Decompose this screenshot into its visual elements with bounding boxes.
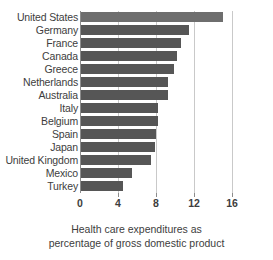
tick-label: 8 bbox=[153, 197, 159, 209]
bar-row bbox=[81, 11, 233, 24]
bar-row bbox=[81, 89, 233, 102]
category-label: Japan bbox=[0, 141, 78, 154]
bar bbox=[81, 181, 123, 191]
chart-caption: Health care expenditures as percentage o… bbox=[0, 222, 273, 250]
category-axis-labels: United StatesGermanyFranceCanadaGreeceNe… bbox=[0, 11, 78, 193]
bar bbox=[81, 168, 132, 178]
bar-row bbox=[81, 63, 233, 76]
category-label: Canada bbox=[0, 50, 78, 63]
bar bbox=[81, 51, 177, 61]
category-label: Spain bbox=[0, 128, 78, 141]
bar-row bbox=[81, 115, 233, 128]
health-expenditure-bar-chart: United StatesGermanyFranceCanadaGreeceNe… bbox=[0, 0, 273, 260]
category-label: Australia bbox=[0, 89, 78, 102]
bar bbox=[81, 64, 174, 74]
caption-line-1: Health care expenditures as bbox=[0, 222, 273, 236]
category-label: Netherlands bbox=[0, 76, 78, 89]
chart-plot-block: United StatesGermanyFranceCanadaGreeceNe… bbox=[0, 0, 273, 214]
value-axis: 0481216 bbox=[80, 193, 240, 213]
bar bbox=[81, 25, 189, 35]
bar-row bbox=[81, 154, 233, 167]
category-label: Greece bbox=[0, 63, 78, 76]
bar bbox=[81, 12, 223, 22]
bar-row bbox=[81, 167, 233, 180]
bar-row bbox=[81, 102, 233, 115]
bar-row bbox=[81, 76, 233, 89]
bar-series bbox=[81, 11, 233, 193]
plot-area bbox=[80, 11, 233, 193]
category-label: France bbox=[0, 37, 78, 50]
category-label: Belgium bbox=[0, 115, 78, 128]
bar-row bbox=[81, 24, 233, 37]
tick-label: 0 bbox=[77, 197, 83, 209]
bar bbox=[81, 129, 156, 139]
category-label: Italy bbox=[0, 102, 78, 115]
bar-row bbox=[81, 141, 233, 154]
tick-label: 12 bbox=[188, 197, 200, 209]
bar-row bbox=[81, 128, 233, 141]
bar bbox=[81, 90, 168, 100]
category-label: Mexico bbox=[0, 167, 78, 180]
bar bbox=[81, 142, 155, 152]
bar bbox=[81, 103, 158, 113]
bar-row bbox=[81, 180, 233, 193]
category-label: United States bbox=[0, 11, 78, 24]
bar-row bbox=[81, 50, 233, 63]
bar bbox=[81, 77, 168, 87]
bar bbox=[81, 116, 158, 126]
category-label: Turkey bbox=[0, 180, 78, 193]
category-label: Germany bbox=[0, 24, 78, 37]
category-label: United Kingdom bbox=[0, 154, 78, 167]
tick-label: 16 bbox=[226, 197, 238, 209]
bar bbox=[81, 155, 151, 165]
bar bbox=[81, 38, 181, 48]
bar-row bbox=[81, 37, 233, 50]
caption-line-2: percentage of gross domestic product bbox=[0, 236, 273, 250]
tick-label: 4 bbox=[115, 197, 121, 209]
